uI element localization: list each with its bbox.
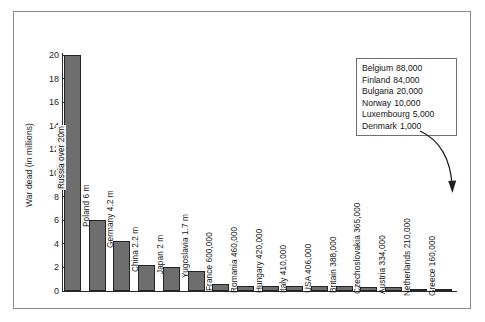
annotation-value: 5,000 xyxy=(413,109,435,119)
y-tick-16: 16 xyxy=(26,97,68,107)
y-tick-label: 16 xyxy=(49,97,59,107)
y-tick-20: 20 xyxy=(26,50,68,60)
bar-italy[interactable] xyxy=(286,286,303,291)
y-tick-label: 20 xyxy=(49,50,59,60)
annotation-value: 10,000 xyxy=(394,98,420,108)
callout-arrow-icon xyxy=(418,130,468,198)
y-tick-label: 4 xyxy=(54,239,59,249)
annotation-country: Luxembourg xyxy=(362,109,410,119)
bar-label-romania: Romania 460,000 xyxy=(229,226,239,292)
bar-hungary[interactable] xyxy=(262,286,279,291)
bar-label-poland: Poland 6 m xyxy=(81,185,91,227)
bar-germany[interactable] xyxy=(113,241,130,291)
bar-yugoslavia[interactable] xyxy=(188,271,205,291)
annotation-box: Belgium88,000Finland84,000Bulgaria20,000… xyxy=(356,58,457,136)
y-axis-title: War dead (in millions) xyxy=(24,95,34,235)
y-tick-4: 4 xyxy=(26,239,68,249)
y-tick-label: 0 xyxy=(54,286,59,296)
y-tick-6: 6 xyxy=(26,215,68,225)
y-tick-label: 2 xyxy=(54,262,59,272)
bar-japan[interactable] xyxy=(163,267,180,291)
annotation-value: 88,000 xyxy=(396,63,422,73)
bar-austria[interactable] xyxy=(385,287,402,291)
y-tick-18: 18 xyxy=(26,74,68,84)
bar-britain[interactable] xyxy=(336,286,353,291)
annotation-value: 20,000 xyxy=(397,86,423,96)
bar-label-czechoslovakia: Czechoslovakia 365,000 xyxy=(352,202,362,294)
bar-label-netherlands: Netherlands 210,000 xyxy=(402,218,412,296)
annotation-country: Finland xyxy=(362,75,390,85)
bar-label-russia: Russia over 20m xyxy=(56,125,66,190)
bar-label-germany: Germany 4.2 m xyxy=(105,191,115,249)
annotation-row: Finland84,000 xyxy=(362,75,456,87)
bar-netherlands[interactable] xyxy=(410,289,427,292)
y-tick-label: 18 xyxy=(49,74,59,84)
annotation-row: Norway10,000 xyxy=(362,98,456,110)
annotation-country: Norway xyxy=(362,98,391,108)
bar-label-italy: Italy 410,000 xyxy=(278,245,288,293)
annotation-country: Bulgaria xyxy=(362,86,394,96)
annotation-row: Belgium88,000 xyxy=(362,63,456,75)
bar-label-france: France 600,000 xyxy=(204,232,214,291)
bar-label-britain: Britain 388,000 xyxy=(328,237,338,294)
bar-label-austria: Austria 334,000 xyxy=(377,235,387,294)
annotation-row: Luxembourg5,000 xyxy=(362,109,456,121)
bar-poland[interactable] xyxy=(89,220,106,291)
bar-romania[interactable] xyxy=(237,286,254,291)
annotation-value: 84,000 xyxy=(393,75,419,85)
bar-label-china: China 2.2 m xyxy=(130,227,140,272)
bar-label-yugoslavia: Yugoslavia 1.7 m xyxy=(180,214,190,278)
bar-france[interactable] xyxy=(212,284,229,291)
bar-label-hungary: Hungary 420,000 xyxy=(254,229,264,293)
y-tick-2: 2 xyxy=(26,262,68,272)
bar-czechoslovakia[interactable] xyxy=(360,287,377,291)
y-tick-0: 0 xyxy=(26,286,68,296)
y-tick-label: 8 xyxy=(54,192,59,202)
bar-chart-plot-area: War dead (in millions) 20181614121086420… xyxy=(0,0,485,322)
y-tick-8: 8 xyxy=(26,192,68,202)
annotation-country: Belgium xyxy=(362,63,393,73)
bar-greece[interactable] xyxy=(435,289,452,292)
y-tick-label: 6 xyxy=(54,215,59,225)
bar-russia[interactable] xyxy=(64,55,81,291)
bar-label-greece: Greece 160,000 xyxy=(427,235,437,295)
bar-label-usa: USA 406,000 xyxy=(303,244,313,293)
annotation-country: Denmark xyxy=(362,121,397,131)
bar-china[interactable] xyxy=(138,265,155,291)
bar-usa[interactable] xyxy=(311,286,328,291)
bar-label-japan: Japan 2 m xyxy=(155,235,165,274)
annotation-row: Bulgaria20,000 xyxy=(362,86,456,98)
